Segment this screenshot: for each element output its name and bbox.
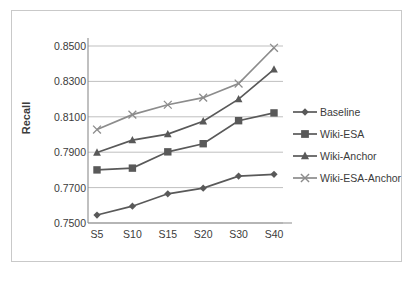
legend-item-baseline[interactable]: Baseline <box>292 101 410 123</box>
series-layer <box>93 44 278 219</box>
diamond-marker-icon <box>292 105 318 119</box>
legend-item-wiki-esa-anchor[interactable]: Wiki-ESA-Anchor <box>292 167 410 189</box>
chart-figure: 0.75000.77000.79000.81000.83000.8500 S5S… <box>0 0 415 282</box>
cross-marker-icon <box>292 171 318 185</box>
y-tick-label: 0.8500 <box>38 40 86 52</box>
y-tick-label: 0.8100 <box>38 111 86 123</box>
x-tick-label: S15 <box>148 228 188 240</box>
triangle-marker-icon <box>292 149 318 163</box>
y-tick-label: 0.7900 <box>38 146 86 158</box>
legend-label: Wiki-ESA-Anchor <box>320 172 401 184</box>
square-marker-icon <box>292 127 318 141</box>
series-baseline <box>93 171 277 219</box>
legend-item-wiki-esa[interactable]: Wiki-ESA <box>292 123 410 145</box>
gridlines <box>88 46 283 223</box>
x-tick-label: S10 <box>112 228 152 240</box>
legend-item-wiki-anchor[interactable]: Wiki-Anchor <box>292 145 410 167</box>
axis-lines <box>88 38 292 223</box>
x-tick-label: S20 <box>183 228 223 240</box>
y-axis-label: Recall <box>20 88 32 148</box>
x-tick-label: S30 <box>219 228 259 240</box>
legend-label: Wiki-Anchor <box>320 150 377 162</box>
series-wiki-anchor <box>93 65 278 156</box>
y-tick-label: 0.7700 <box>38 182 86 194</box>
x-tick-label: S40 <box>254 228 294 240</box>
x-tick-label: S5 <box>77 228 117 240</box>
legend-label: Wiki-ESA <box>320 128 364 140</box>
y-tick-label: 0.8300 <box>38 75 86 87</box>
legend-label: Baseline <box>320 106 360 118</box>
chart-legend: BaselineWiki-ESAWiki-AnchorWiki-ESA-Anch… <box>292 101 410 189</box>
